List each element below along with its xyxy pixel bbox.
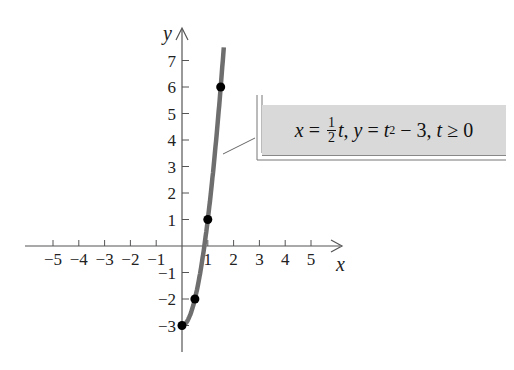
x-tick-label: −2 — [121, 250, 139, 269]
data-point — [203, 215, 212, 224]
y-tick-label: 6 — [168, 78, 177, 97]
y-tick-label: 1 — [168, 211, 177, 230]
y-tick-label: 7 — [168, 52, 177, 71]
x-tick-label: −4 — [70, 250, 89, 269]
data-point — [216, 83, 225, 92]
callout-condition: ≥ 0 — [442, 119, 473, 142]
data-point — [190, 295, 199, 304]
callout-sep: , — [344, 119, 354, 142]
equation-callout: x = 1 2 t , y = t2 − 3, t ≥ 0 — [262, 105, 506, 156]
data-point — [178, 321, 187, 330]
y-tick-label: 5 — [168, 105, 177, 124]
y-tick-label: 4 — [168, 131, 177, 150]
fraction-denominator: 2 — [328, 131, 335, 145]
callout-eq: = — [304, 119, 325, 142]
fraction-numerator: 1 — [327, 116, 336, 131]
callout-fraction: 1 2 — [327, 116, 336, 145]
y-axis-label: y — [161, 22, 172, 45]
callout-x: x — [295, 119, 304, 142]
x-tick-label: 3 — [255, 250, 264, 269]
callout-rest: − 3, — [395, 119, 436, 142]
y-tick-label: −1 — [158, 264, 176, 283]
callout-y: y — [354, 119, 363, 142]
x-axis-label: x — [335, 253, 345, 275]
x-tick-label: 2 — [229, 250, 238, 269]
y-tick-label: −3 — [158, 317, 176, 336]
chart-plot: −5−4−3−2−112345−3−2−11234567xy — [0, 0, 514, 370]
callout-eq2: = — [362, 119, 383, 142]
callout-leader-line — [223, 138, 255, 154]
x-tick-label: −3 — [96, 250, 114, 269]
x-tick-label: −5 — [44, 250, 62, 269]
y-tick-label: 3 — [168, 158, 177, 177]
x-tick-label: 4 — [281, 250, 290, 269]
x-tick-label: 5 — [307, 250, 316, 269]
y-tick-label: −2 — [158, 290, 176, 309]
y-tick-label: 2 — [168, 184, 177, 203]
